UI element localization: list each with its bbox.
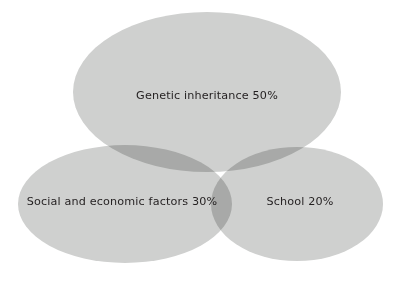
venn-shapes [0, 0, 399, 281]
ellipse-school [211, 147, 383, 261]
venn-ellipse-group [18, 12, 383, 263]
venn-diagram: Genetic inheritance 50% Social and econo… [0, 0, 399, 281]
ellipse-social-economic-factors [18, 145, 232, 263]
